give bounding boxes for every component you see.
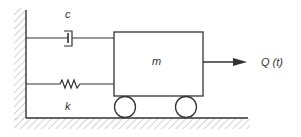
damper xyxy=(26,31,114,46)
wall-hatching xyxy=(14,8,26,120)
spring-label: k xyxy=(65,101,71,112)
force-label: Q (t) xyxy=(261,57,283,68)
force-arrow xyxy=(203,58,247,66)
spring xyxy=(26,80,114,88)
wheel-left xyxy=(115,97,136,118)
mass-label: m xyxy=(152,56,161,67)
wheel-right xyxy=(176,97,197,118)
damper-label: c xyxy=(65,9,71,20)
system-diagram xyxy=(0,0,301,137)
floor-hatching xyxy=(14,118,250,129)
